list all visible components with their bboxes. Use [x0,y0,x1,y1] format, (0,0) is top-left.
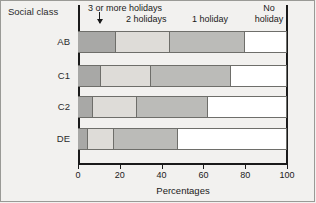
category-label-c2: C2 [12,101,70,113]
bar-segment[interactable] [78,96,93,118]
bar-segment[interactable] [231,65,287,87]
axis-top-right-stub [286,5,288,24]
x-axis-tick-label: 40 [157,170,167,181]
bar-segment[interactable] [178,128,287,150]
x-axis-tick-label: 20 [115,170,125,181]
category-label-de: DE [12,133,70,145]
category-label-c1: C1 [12,70,70,82]
x-axis-tick-label: 0 [75,170,80,181]
x-axis-tick-label: 80 [240,170,250,181]
x-axis-tick [203,165,204,169]
bar-segment[interactable] [114,128,179,150]
legend-label-one-holiday: 1 holiday [192,14,228,25]
legend-label-no-holiday: No holiday [247,3,291,25]
bar-segment[interactable] [208,96,287,118]
bar-row[interactable] [78,96,287,118]
x-axis-tick [162,165,163,169]
social-class-axis-label: Social class [8,6,58,17]
category-label-ab: AB [12,36,70,48]
bar-segment[interactable] [137,96,208,118]
x-axis-tick-label: 60 [198,170,208,181]
legend-label-two-holidays: 2 holidays [126,14,167,25]
bar-segment[interactable] [78,31,116,53]
bar-segment[interactable] [151,65,230,87]
x-axis-tick [120,165,121,169]
legend-label-no-holiday-line2: holiday [247,14,291,25]
bar-segment[interactable] [101,65,151,87]
axis-top-left-stub [78,5,80,24]
bar-segment[interactable] [78,128,88,150]
bar-segment[interactable] [116,31,170,53]
x-axis-line [78,163,288,165]
stacked-bar-chart-figure: Social class 3 or more holidays 2 holida… [0,0,316,203]
bar-row[interactable] [78,128,287,150]
bar-row[interactable] [78,31,287,53]
x-axis-tick [287,165,288,169]
x-axis-title: Percentages [78,185,288,196]
bar-segment[interactable] [170,31,245,53]
down-arrow-icon [99,12,100,23]
bar-segment[interactable] [78,65,101,87]
bar-segment[interactable] [88,128,113,150]
legend-label-no-holiday-line1: No [247,3,291,14]
x-axis-tick-label: 100 [279,170,294,181]
bar-segment[interactable] [245,31,287,53]
bar-row[interactable] [78,65,287,87]
bar-segment[interactable] [93,96,137,118]
x-axis-tick [78,165,79,169]
x-axis-tick [245,165,246,169]
